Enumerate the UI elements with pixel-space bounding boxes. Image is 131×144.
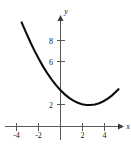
y-axis-label: y — [63, 7, 68, 16]
x-tick-label-neg2: -2 — [35, 131, 42, 140]
x-axis-arrow-icon — [118, 124, 124, 130]
x-tick-label-2: 2 — [81, 131, 85, 140]
y-tick-label-2: 2 — [49, 101, 53, 110]
x-tick-label-neg4: -4 — [13, 131, 20, 140]
graph-figure: -4 -2 2 4 2 6 8 y x — [0, 0, 131, 144]
y-axis-arrow-icon — [58, 15, 64, 21]
parabola-plot: -4 -2 2 4 2 6 8 y x — [0, 0, 131, 144]
y-tick-label-8: 8 — [49, 37, 53, 46]
x-axis-label: x — [125, 122, 130, 131]
parabola-curve — [22, 22, 119, 105]
x-tick-label-4: 4 — [103, 131, 107, 140]
y-tick-label-6: 6 — [49, 58, 53, 67]
